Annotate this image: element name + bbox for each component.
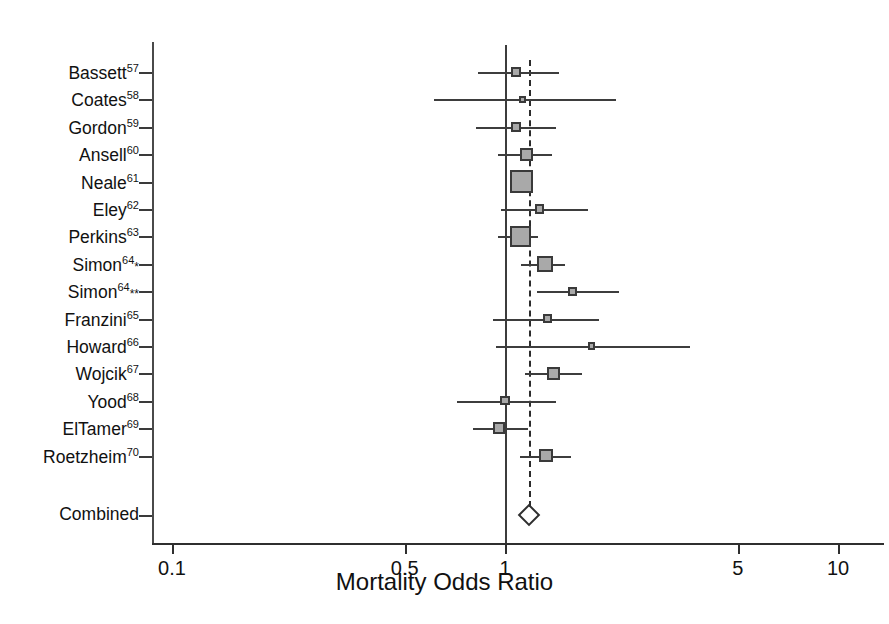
point-estimate-box — [519, 96, 526, 103]
study-label: Franzini65 — [65, 310, 140, 329]
x-axis-tick-label: 10 — [798, 557, 878, 580]
x-axis-tick — [505, 543, 507, 554]
study-label: Bassett57 — [68, 63, 139, 82]
study-label: Neale61 — [81, 173, 139, 192]
point-estimate-box — [547, 367, 560, 380]
point-estimate-box — [588, 342, 595, 349]
y-axis-tick — [139, 291, 152, 293]
y-axis-tick — [139, 373, 152, 375]
y-axis-tick — [139, 72, 152, 74]
combined-diamond-marker — [518, 504, 541, 527]
y-axis-tick — [139, 99, 152, 101]
y-axis-tick — [139, 428, 152, 430]
y-axis-tick — [139, 401, 152, 403]
study-label: Simon64* — [72, 255, 139, 274]
study-label: Wojcik67 — [76, 364, 139, 383]
y-axis-tick — [139, 264, 152, 266]
y-axis-tick — [139, 319, 152, 321]
point-estimate-box — [510, 226, 531, 247]
y-axis-tick — [139, 515, 152, 517]
y-axis-tick — [139, 346, 152, 348]
study-label: Perkins63 — [68, 227, 139, 246]
study-label: Eley62 — [93, 200, 139, 219]
y-axis-tick — [139, 209, 152, 211]
y-axis-tick — [139, 127, 152, 129]
point-estimate-box — [511, 67, 521, 77]
point-estimate-box — [539, 449, 553, 463]
point-estimate-box — [511, 122, 521, 132]
study-label: Howard66 — [66, 337, 139, 356]
point-estimate-box — [568, 287, 577, 296]
y-axis-tick — [139, 236, 152, 238]
study-label: Yood68 — [87, 392, 139, 411]
y-axis-tick — [139, 182, 152, 184]
y-axis-tick — [139, 154, 152, 156]
study-label: Gordon59 — [68, 118, 139, 137]
x-axis-tick — [738, 543, 740, 554]
point-estimate-box — [510, 170, 533, 193]
point-estimate-box — [500, 396, 509, 405]
study-label: ElTamer69 — [63, 419, 139, 438]
point-estimate-box — [543, 314, 552, 323]
x-axis-line — [152, 543, 884, 545]
study-label: Simon64** — [68, 282, 139, 301]
forest-plot: Mortality Odds Ratio 0.10.51510Bassett57… — [0, 0, 889, 624]
x-axis-tick-label: 5 — [698, 557, 778, 580]
study-label: Ansell60 — [79, 145, 139, 164]
y-axis-line — [152, 42, 154, 543]
study-label: Coates58 — [71, 90, 139, 109]
x-axis-tick-label: 0.1 — [132, 557, 212, 580]
confidence-interval-line — [537, 291, 619, 293]
point-estimate-box — [493, 422, 505, 434]
point-estimate-box — [535, 204, 544, 213]
x-axis-tick — [405, 543, 407, 554]
x-axis-tick-label: 1 — [465, 557, 545, 580]
x-axis-tick-label: 0.5 — [365, 557, 445, 580]
study-label: Roetzheim70 — [43, 447, 139, 466]
point-estimate-box — [520, 148, 533, 161]
x-axis-tick — [172, 543, 174, 554]
study-label: Combined — [59, 506, 139, 524]
point-estimate-box — [537, 256, 553, 272]
y-axis-tick — [139, 456, 152, 458]
reference-line-or-1 — [505, 45, 507, 543]
x-axis-tick — [838, 543, 840, 554]
